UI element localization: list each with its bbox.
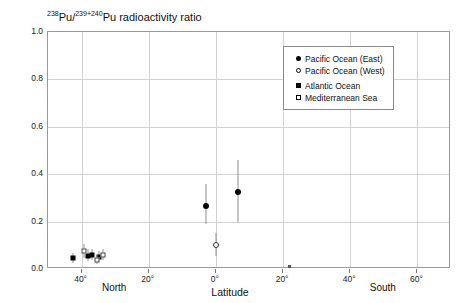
data-point [82, 249, 87, 254]
data-point [213, 242, 219, 248]
gridline-vertical [149, 32, 150, 267]
open-square-icon [291, 95, 305, 100]
filled-circle-icon [291, 56, 305, 61]
legend-entry: Atlantic Ocean [291, 80, 385, 91]
y-axis-tick-label: 0.0 [9, 263, 43, 273]
x-axis-tick-label: 40° [74, 274, 87, 284]
gridline-vertical [82, 32, 83, 267]
legend-entry: Mediterranean Sea [291, 92, 385, 103]
filled-square-icon [291, 83, 305, 88]
y-axis-tick-label: 0.2 [9, 216, 43, 226]
legend-label: Atlantic Ocean [305, 81, 360, 91]
gridline-horizontal [48, 174, 449, 175]
gridline-vertical [417, 32, 418, 267]
y-axis: 1.00.80.60.40.20.0 [5, 31, 43, 268]
legend-label: Pacific Ocean (East) [305, 54, 382, 64]
y-axis-tick-label: 0.6 [9, 121, 43, 131]
title-rest: Pu radioactivity ratio [103, 11, 202, 23]
legend-entry: Pacific Ocean (West) [291, 65, 385, 76]
x-axis-tick-mark [215, 269, 216, 273]
legend-label: Mediterranean Sea [305, 93, 377, 103]
x-axis-tick-label: 20° [276, 274, 289, 284]
data-point [94, 257, 99, 262]
gridline-vertical [216, 32, 217, 267]
data-point [235, 189, 241, 195]
gridline-horizontal [48, 222, 449, 223]
chart-legend: Pacific Ocean (East)Pacific Ocean (West)… [283, 46, 394, 110]
legend-label: Pacific Ocean (West) [305, 66, 385, 76]
title-superscript-239-240: 239+240 [75, 10, 102, 17]
data-point [101, 252, 106, 257]
y-axis-tick-label: 0.8 [9, 73, 43, 83]
x-axis-tick-label: 20° [141, 274, 154, 284]
x-axis-tick-mark [81, 269, 82, 273]
x-axis-tick-label: 40° [343, 274, 356, 284]
legend-entry: Pacific Ocean (East) [291, 53, 385, 64]
data-point [71, 255, 76, 260]
title-mid: Pu/ [59, 11, 76, 23]
axis-artifact-mark [288, 265, 291, 268]
chart-title: 238Pu/239+240Pu radioactivity ratio [47, 10, 202, 23]
x-axis-tick-mark [282, 269, 283, 273]
x-axis-tick-label: 0° [211, 274, 219, 284]
x-axis-tick-mark [416, 269, 417, 273]
x-axis-tick-mark [349, 269, 350, 273]
y-axis-tick-label: 1.0 [9, 26, 43, 36]
open-circle-icon [291, 68, 305, 73]
scatter-chart-figure: 238Pu/239+240Pu radioactivity ratio 1.00… [0, 0, 460, 303]
title-superscript-238: 238 [47, 10, 59, 17]
x-axis-title: Latitude [0, 286, 460, 298]
x-axis-tick-mark [148, 269, 149, 273]
data-point [203, 203, 209, 209]
gridline-horizontal [48, 127, 449, 128]
x-axis-tick-label: 60° [410, 274, 423, 284]
y-axis-tick-label: 0.4 [9, 168, 43, 178]
